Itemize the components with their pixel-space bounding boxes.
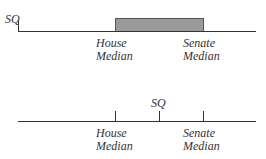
sq-tick-top xyxy=(18,21,19,31)
house-median-label-bottom: Median xyxy=(96,140,133,153)
senate-median-label-top: Median xyxy=(183,50,220,63)
sq-label-bottom: SQ xyxy=(151,97,166,110)
house-median-label-top: Median xyxy=(96,50,133,63)
policy-line-top xyxy=(18,31,256,32)
shaded-interval-bar xyxy=(115,18,204,31)
senate-tick-bottom xyxy=(203,111,204,121)
sq-tick-bottom xyxy=(159,111,160,121)
senate-median-label-bottom: Median xyxy=(183,140,220,153)
policy-line-bottom xyxy=(18,121,256,122)
house-tick-bottom xyxy=(115,111,116,121)
